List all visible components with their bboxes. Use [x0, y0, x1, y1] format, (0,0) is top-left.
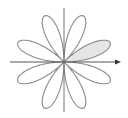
polar-rose-diagram	[0, 0, 128, 118]
x-axis-arrow-icon	[115, 60, 121, 65]
